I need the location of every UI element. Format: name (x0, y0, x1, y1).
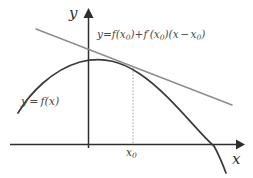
x-axis-label: x (232, 152, 240, 167)
curve-eq-rhs: f(x) (40, 95, 59, 108)
y-axis-arrowhead (84, 8, 94, 18)
x-axis-arrowhead (236, 140, 245, 150)
x0-subscript: 0 (132, 151, 137, 160)
curve-equation-label: y=f(x) (21, 96, 59, 107)
y-axis-group (84, 8, 94, 148)
tangent-eq-fx0: f(x (112, 28, 126, 40)
y-axis-label: y (69, 6, 77, 21)
tangent-eq-fprime: f′(x (143, 28, 159, 40)
curve-eq-equals: = (27, 95, 40, 108)
x0-tick-label: x0 (126, 147, 137, 160)
function-curve (18, 60, 226, 173)
tangent-line-figure: y x y=f(x0)+f′(x0)(x−x0) y=f(x) x0 (0, 0, 253, 178)
tangent-eq-equals: = (103, 28, 112, 40)
tangent-equation-label: y=f(x0)+f′(x0)(x−x0) (97, 29, 205, 42)
tangent-eq-minus: − (179, 28, 191, 40)
tangent-eq-bracket-open: (x (169, 28, 179, 40)
tangent-eq-bracket-close: ) (201, 28, 205, 40)
